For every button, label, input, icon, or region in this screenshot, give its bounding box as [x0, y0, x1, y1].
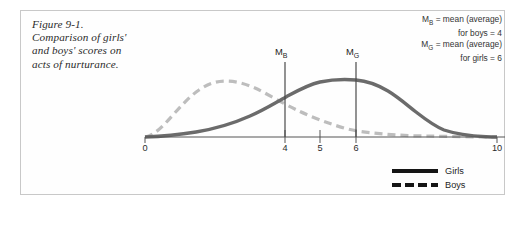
tick-label-10: 10	[487, 143, 507, 153]
mean-label-boys-sub: B	[283, 52, 288, 59]
legend-swatch-dashed-line-icon	[392, 183, 438, 187]
legend-label-girls: Girls	[445, 166, 464, 176]
tick-label-6: 6	[346, 143, 366, 153]
legend-item-boys: Boys	[392, 178, 492, 192]
legend: Girls Boys	[392, 164, 492, 192]
legend-label-boys: Boys	[445, 180, 465, 190]
mean-label-boys: MB	[275, 46, 287, 59]
mean-label-girls-sub: G	[354, 52, 359, 59]
tick-label-4: 4	[275, 143, 295, 153]
mean-label-girls: MG	[346, 46, 359, 59]
girls-curve	[145, 80, 497, 137]
legend-item-girls: Girls	[392, 164, 492, 178]
tick-label-0: 0	[135, 143, 155, 153]
mean-label-girls-main: M	[346, 46, 354, 57]
tick-label-5: 5	[310, 143, 330, 153]
mean-label-boys-main: M	[275, 46, 283, 57]
legend-swatch-solid-line-icon	[392, 169, 438, 173]
